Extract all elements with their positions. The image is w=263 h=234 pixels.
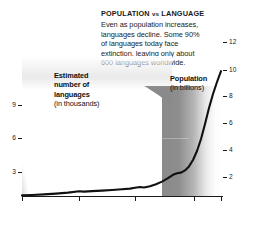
y-left-tick-9: [18, 105, 22, 106]
y-right-label-8: 8: [229, 92, 233, 99]
y-right-tick-6: [223, 123, 227, 124]
y-left-tick-6: [18, 138, 22, 139]
y-right-tick-8: [223, 96, 227, 97]
y-right-tick-12: [223, 42, 227, 43]
y-left-label-9: 9: [12, 101, 16, 108]
x-tick-1500: [135, 197, 136, 201]
y-left-tick-3: [18, 172, 22, 173]
population-line-series: [22, 34, 223, 197]
population-curve-path: [22, 71, 221, 195]
y-right-label-6: 6: [229, 119, 233, 126]
x-tick-2100: [221, 197, 222, 201]
x-axis-line: [22, 196, 223, 197]
chart-title-main: POPULATION: [101, 9, 150, 18]
chart-title-tail: LANGUAGE: [161, 9, 204, 18]
chart-title-vs: vs: [152, 10, 159, 17]
y-right-label-10: 10: [229, 66, 236, 73]
y-right-label-12: 12: [229, 38, 236, 45]
y-right-label-2: 2: [229, 173, 233, 180]
x-tick-ad1: [79, 197, 80, 201]
y-right-tick-2: [223, 177, 227, 178]
y-left-label-6: 6: [12, 134, 16, 141]
x-tick-1990: [194, 197, 195, 201]
y-left-label-3: 3: [12, 168, 16, 175]
plot-area: Estimated number of languages (in thousa…: [22, 34, 223, 197]
y-right-tick-4: [223, 150, 227, 151]
description-line-1: Even as population increases,: [101, 20, 219, 30]
population-vs-language-chart: POPULATION vs LANGUAGE Even as populatio…: [0, 0, 263, 234]
chart-title: POPULATION vs LANGUAGE: [101, 9, 219, 18]
y-right-tick-10: [223, 70, 227, 71]
x-tick-10000bc: [22, 197, 23, 201]
y-right-label-4: 4: [229, 146, 233, 153]
